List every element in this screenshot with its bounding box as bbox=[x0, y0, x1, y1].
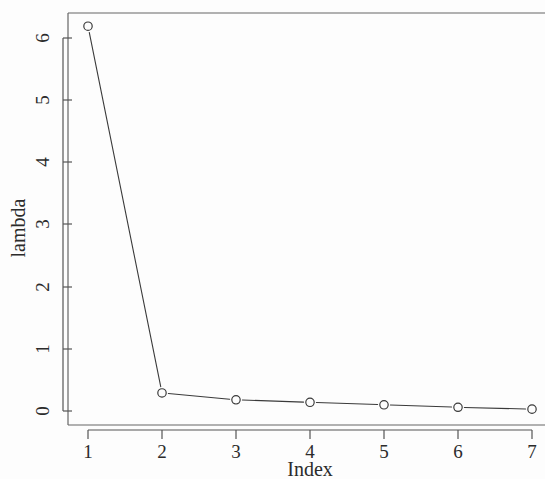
x-tick-label-1: 1 bbox=[83, 441, 93, 462]
data-point-4 bbox=[306, 398, 314, 406]
series-segment-4 bbox=[316, 403, 377, 405]
y-tick-label-6: 6 bbox=[32, 33, 53, 43]
data-point-6 bbox=[454, 403, 462, 411]
y-tick-labels: 0 1 2 3 4 5 6 bbox=[32, 33, 53, 416]
data-point-5 bbox=[380, 401, 388, 409]
y-axis-title: lambda bbox=[7, 198, 29, 257]
data-point-2 bbox=[158, 389, 166, 397]
x-tick-label-6: 6 bbox=[453, 441, 463, 462]
x-tick-label-3: 3 bbox=[231, 441, 241, 462]
data-point-3 bbox=[232, 396, 240, 404]
data-point-7 bbox=[528, 405, 536, 413]
series-segment-3 bbox=[242, 400, 303, 402]
data-point-1 bbox=[84, 22, 92, 30]
y-tick-label-2: 2 bbox=[32, 282, 53, 292]
x-tick-label-7: 7 bbox=[527, 441, 537, 462]
series-segment-1 bbox=[89, 32, 160, 386]
data-series-markers bbox=[84, 22, 536, 413]
chart-canvas: 0 1 2 3 4 5 6 lambda 1 2 3 4 5 6 bbox=[0, 0, 545, 479]
data-series-line bbox=[89, 32, 525, 409]
y-tick-label-3: 3 bbox=[32, 219, 53, 229]
x-tick-label-2: 2 bbox=[157, 441, 167, 462]
y-tick-label-1: 1 bbox=[32, 344, 53, 354]
x-axis-title: Index bbox=[287, 458, 333, 479]
y-tick-label-4: 4 bbox=[32, 157, 53, 167]
series-segment-6 bbox=[464, 407, 525, 409]
scree-plot-figure: 0 1 2 3 4 5 6 lambda 1 2 3 4 5 6 bbox=[0, 0, 545, 479]
y-tick-label-5: 5 bbox=[32, 95, 53, 105]
series-segment-5 bbox=[390, 405, 451, 407]
y-tick-label-0: 0 bbox=[32, 406, 53, 416]
series-segment-2 bbox=[168, 394, 229, 400]
x-tick-label-5: 5 bbox=[379, 441, 389, 462]
x-axis-ticks bbox=[88, 430, 532, 439]
